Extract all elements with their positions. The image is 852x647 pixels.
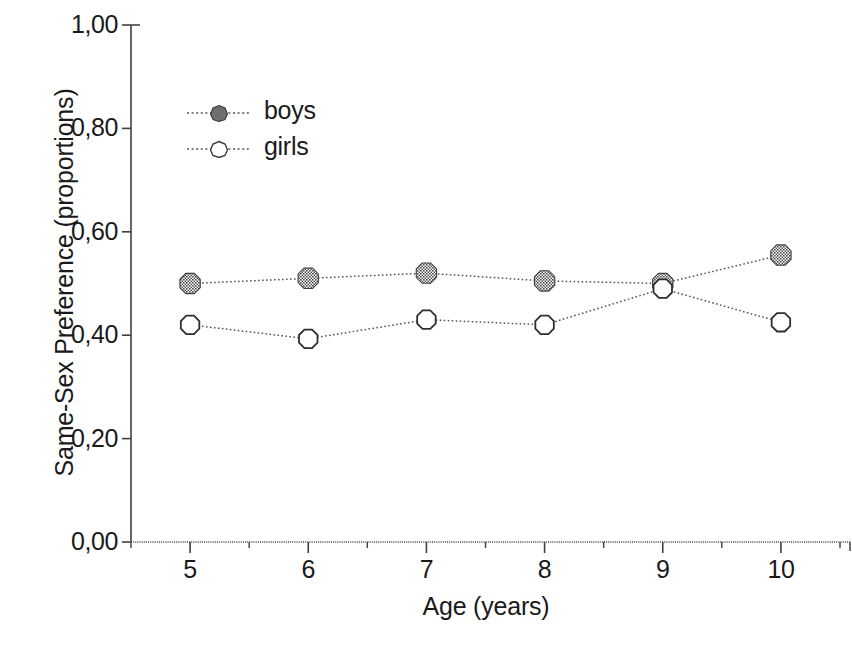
data-series: [180, 245, 791, 348]
series-line-girls: [190, 289, 781, 339]
axis-lines: [122, 25, 850, 553]
series-girls: [181, 279, 790, 348]
series-line-boys: [190, 255, 781, 283]
data-point-boys-7: [416, 263, 436, 283]
data-point-girls-6: [299, 330, 317, 348]
plot-area: [0, 0, 852, 647]
data-point-boys-6: [298, 268, 318, 288]
data-point-girls-7: [417, 310, 435, 328]
data-point-girls-5: [181, 316, 199, 334]
chart-figure: Same-Sex Preference (proportions) Age (y…: [0, 0, 852, 647]
series-boys: [180, 245, 791, 294]
data-point-girls-10: [772, 313, 790, 331]
data-point-girls-8: [535, 316, 553, 334]
data-point-girls-9: [654, 279, 672, 297]
data-point-boys-10: [771, 245, 791, 265]
data-point-boys-8: [534, 271, 554, 291]
data-point-boys-5: [180, 273, 200, 293]
